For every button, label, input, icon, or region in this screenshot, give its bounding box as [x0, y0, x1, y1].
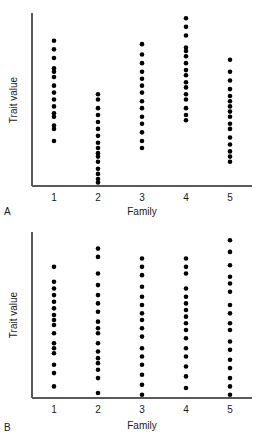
- data-point: [52, 265, 57, 270]
- data-point: [140, 354, 145, 359]
- data-point: [140, 363, 145, 368]
- data-point: [52, 293, 57, 298]
- data-point: [184, 328, 189, 333]
- data-point: [228, 376, 233, 381]
- data-point: [140, 372, 145, 377]
- data-point: [52, 306, 57, 311]
- data-point: [184, 92, 189, 97]
- data-point: [52, 323, 57, 328]
- series-group: [228, 238, 233, 397]
- data-point: [140, 318, 145, 323]
- data-point: [184, 308, 189, 313]
- data-point: [184, 256, 189, 261]
- data-point: [140, 284, 145, 289]
- data-point: [228, 358, 233, 363]
- data-point: [52, 286, 57, 291]
- panel-a-plot: 12345FamilyTrait valueA: [0, 0, 271, 218]
- data-point: [140, 392, 145, 397]
- data-point: [228, 366, 233, 371]
- data-point: [96, 349, 101, 354]
- data-point: [228, 311, 233, 316]
- data-point: [228, 392, 233, 397]
- data-point: [228, 109, 233, 114]
- panel-b: 12345FamilyTrait valueB: [0, 218, 271, 439]
- data-point: [184, 294, 189, 299]
- data-point: [96, 140, 101, 145]
- data-point: [228, 303, 233, 308]
- data-point: [52, 318, 57, 323]
- figure-container: 12345FamilyTrait valueA 12345FamilyTrait…: [0, 0, 271, 439]
- data-point: [228, 149, 233, 154]
- data-point: [184, 374, 189, 379]
- panel-label: B: [4, 422, 11, 433]
- data-point: [52, 90, 57, 95]
- data-point: [228, 104, 233, 109]
- data-point: [184, 85, 189, 90]
- data-point: [96, 356, 101, 361]
- data-point: [140, 76, 145, 81]
- data-point: [184, 97, 189, 102]
- data-point: [184, 80, 189, 85]
- data-point: [96, 293, 101, 298]
- data-point: [140, 256, 145, 261]
- data-point: [184, 25, 189, 30]
- x-tick-label: 3: [139, 192, 145, 203]
- x-tick-label: 2: [95, 404, 101, 415]
- y-axis-title: Trait value: [8, 76, 19, 123]
- data-point: [228, 289, 233, 294]
- data-point: [184, 286, 189, 291]
- data-point: [96, 341, 101, 346]
- data-point: [52, 346, 57, 351]
- data-point: [140, 139, 145, 144]
- data-point: [228, 115, 233, 120]
- panel-a: 12345FamilyTrait valueA: [0, 0, 271, 218]
- data-point: [228, 263, 233, 268]
- series-group: [140, 256, 145, 397]
- data-point: [184, 386, 189, 391]
- data-point: [140, 42, 145, 47]
- data-point: [184, 113, 189, 118]
- data-point: [52, 83, 57, 88]
- data-point: [228, 348, 233, 353]
- data-point: [140, 311, 145, 316]
- series-group: [96, 246, 101, 395]
- data-point: [228, 142, 233, 147]
- data-point: [52, 363, 57, 368]
- data-point: [228, 281, 233, 286]
- data-point: [96, 180, 101, 185]
- data-point: [96, 159, 101, 164]
- data-point: [140, 99, 145, 104]
- data-point: [228, 70, 233, 75]
- data-point: [184, 301, 189, 306]
- data-point: [184, 54, 189, 59]
- data-point: [184, 16, 189, 21]
- data-point: [228, 238, 233, 243]
- data-point: [184, 271, 189, 276]
- data-point: [140, 303, 145, 308]
- data-point: [140, 121, 145, 126]
- data-point: [184, 354, 189, 359]
- data-point: [184, 314, 189, 319]
- data-point: [184, 336, 189, 341]
- data-point: [52, 47, 57, 52]
- x-tick-label: 2: [95, 192, 101, 203]
- data-point: [52, 38, 57, 43]
- x-tick-label: 4: [183, 404, 189, 415]
- data-point: [140, 130, 145, 135]
- data-point: [96, 97, 101, 102]
- data-point: [52, 341, 57, 346]
- x-tick-label: 1: [51, 404, 57, 415]
- data-point: [96, 367, 101, 372]
- data-point: [228, 127, 233, 132]
- data-point: [140, 273, 145, 278]
- data-point: [52, 351, 57, 356]
- data-point: [140, 115, 145, 120]
- data-point: [52, 56, 57, 61]
- series-group: [52, 38, 57, 143]
- data-point: [184, 265, 189, 270]
- data-point: [96, 361, 101, 366]
- series-group: [184, 256, 189, 390]
- data-point: [228, 384, 233, 389]
- data-point: [140, 61, 145, 66]
- data-point: [96, 326, 101, 331]
